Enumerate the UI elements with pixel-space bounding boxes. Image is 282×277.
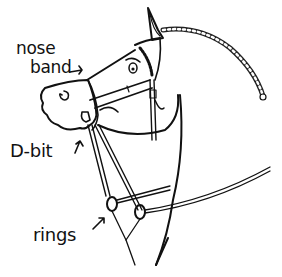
nose-band-label-line1: nose bbox=[16, 40, 55, 57]
ear bbox=[148, 8, 163, 40]
braided-mane bbox=[163, 29, 266, 100]
ring-left bbox=[107, 197, 117, 211]
horse-bridle-illustration: nose band D-bit rings bbox=[0, 0, 282, 277]
d-bit-label: D-bit bbox=[10, 142, 52, 160]
nose-band-label-line2: band bbox=[30, 59, 72, 76]
rings-arrow bbox=[93, 218, 104, 229]
muzzle bbox=[41, 80, 96, 129]
nose-band-arrow bbox=[70, 66, 82, 74]
d-bit-arrow bbox=[75, 141, 83, 153]
rings-label: rings bbox=[33, 226, 76, 244]
